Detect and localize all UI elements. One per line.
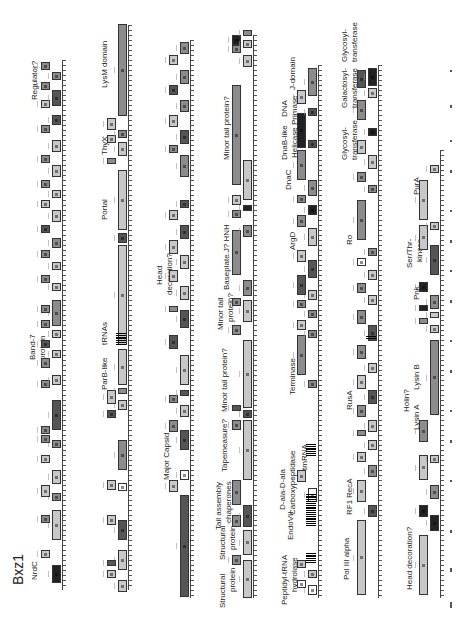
gene-number-mark: [183, 410, 186, 413]
gene-box: [41, 515, 50, 523]
gene-box: [52, 283, 61, 291]
gene-number-mark: [55, 265, 58, 268]
gene-number-mark: [246, 60, 249, 63]
gene-name-tick: [415, 318, 416, 324]
gene-name-tick: [176, 229, 177, 235]
gene-number-mark: [235, 213, 238, 216]
gene-number-mark: [371, 470, 374, 473]
caption-fragment: [450, 240, 452, 243]
gene-box: [52, 330, 61, 338]
gene-box: [430, 312, 439, 318]
gene-box: [368, 68, 377, 86]
gene-box: [41, 320, 50, 328]
gene-box: [297, 250, 306, 262]
gene-box: [419, 505, 428, 517]
gene-box: [107, 118, 116, 130]
trna-mark: [306, 455, 316, 456]
gene-name-tick: [103, 517, 104, 523]
trna-mark: [306, 453, 316, 454]
gene-box: [419, 420, 428, 442]
gene-box: [243, 40, 252, 48]
gene-box: [232, 195, 241, 205]
gene-box: [41, 155, 50, 163]
gene-name-tick: [103, 121, 104, 127]
gene-label: Major Capsid: [162, 433, 171, 480]
gene-box: [118, 483, 127, 491]
gene-name-tick: [176, 316, 177, 322]
gene-box: [357, 430, 366, 436]
gene-name-tick: [239, 447, 240, 453]
gene-box: [232, 420, 241, 430]
gene-name-tick: [228, 211, 229, 217]
gene-number-mark: [433, 458, 436, 461]
gene-number-mark: [371, 425, 374, 428]
trna-mark: [306, 444, 316, 445]
gene-number-mark: [55, 286, 58, 289]
trna-mark: [366, 336, 376, 337]
caption-fragment: [450, 370, 452, 373]
gene-box: [232, 405, 241, 411]
gene-box: [52, 350, 61, 358]
gene-name-tick: [415, 235, 416, 241]
gene-box: [118, 245, 127, 345]
gene-number-mark: [55, 379, 58, 382]
gene-label: Minor tail protein?: [220, 348, 229, 412]
gene-number-mark: [433, 328, 436, 331]
gene-name-tick: [48, 412, 49, 418]
gene-box: [419, 535, 428, 595]
gene-name-tick: [228, 327, 229, 333]
gene-box: [180, 225, 189, 239]
gene-name-tick: [37, 436, 38, 442]
gene-number-mark: [360, 219, 363, 222]
gene-name-tick: [48, 117, 49, 123]
gene-number-mark: [246, 43, 249, 46]
gene-box: [297, 113, 306, 148]
gene-name-tick: [293, 128, 294, 134]
gene-number-mark: [55, 333, 58, 336]
gene-number-mark: [246, 578, 249, 581]
caption-fragment: [450, 530, 452, 533]
gene-label: Structural: [218, 574, 227, 608]
gene-box: [41, 485, 50, 497]
gene-number-mark: [433, 301, 436, 304]
gene-box: [368, 128, 377, 136]
gene-box: [430, 515, 439, 531]
gene-name-tick: [228, 422, 229, 428]
gene-name-tick: [304, 311, 305, 317]
gene-name-tick: [304, 234, 305, 240]
gene-number-mark: [110, 413, 113, 416]
gene-name-tick: [103, 394, 104, 400]
gene-number-mark: [422, 510, 425, 513]
gene-label: EndoVII: [286, 512, 295, 540]
gene-number-mark: [371, 274, 374, 277]
gene-number-mark: [55, 476, 58, 479]
trna-mark: [306, 507, 316, 508]
gene-number-mark: [311, 313, 314, 316]
gene-box: [107, 410, 116, 418]
gene-name-tick: [176, 290, 177, 296]
gene-name-tick: [239, 576, 240, 582]
gene-box: [308, 68, 317, 96]
gene-name-tick: [165, 146, 166, 152]
gene-name-tick: [114, 146, 115, 152]
gene-name-tick: [228, 37, 229, 43]
gene-number-mark: [422, 286, 425, 289]
gene-name-tick: [37, 427, 38, 433]
gene-box: [52, 190, 61, 198]
gene-name-tick: [353, 174, 354, 180]
gene-number-mark: [110, 573, 113, 576]
gene-number-mark: [246, 310, 249, 313]
gene-name-tick: [37, 516, 38, 522]
gene-number-mark: [246, 179, 249, 182]
gene-number-mark: [55, 119, 58, 122]
gene-name-tick: [228, 405, 229, 411]
gene-box: [52, 565, 61, 583]
gene-box: [308, 260, 317, 278]
gene-number-mark: [246, 413, 249, 416]
gene-label: Glycosyl-: [340, 29, 349, 62]
gene-box: [368, 505, 377, 517]
gene-number-mark: [55, 97, 58, 100]
gene-name-tick: [37, 63, 38, 69]
gene-number-mark: [183, 545, 186, 548]
gene-name-tick: [103, 158, 104, 164]
